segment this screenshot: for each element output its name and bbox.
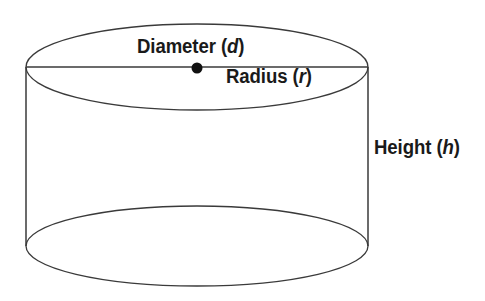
- radius-close-paren: ): [306, 65, 312, 87]
- diameter-label-text: Diameter: [137, 35, 216, 57]
- radius-label: Radius (r): [226, 66, 312, 86]
- center-point-dot: [192, 63, 203, 74]
- diameter-label: Diameter (d): [137, 36, 244, 56]
- height-label: Height (h): [374, 137, 460, 157]
- bottom-ellipse: [26, 206, 368, 286]
- height-close-paren: ): [454, 136, 460, 158]
- diameter-close-paren: ): [238, 35, 244, 57]
- height-variable: h: [443, 136, 454, 158]
- radius-label-text: Radius: [226, 65, 287, 87]
- diameter-variable: d: [227, 35, 238, 57]
- height-label-text: Height: [374, 136, 431, 158]
- radius-variable: r: [299, 65, 306, 87]
- cylinder-diagram: Diameter (d) Radius (r) Height (h): [0, 0, 485, 301]
